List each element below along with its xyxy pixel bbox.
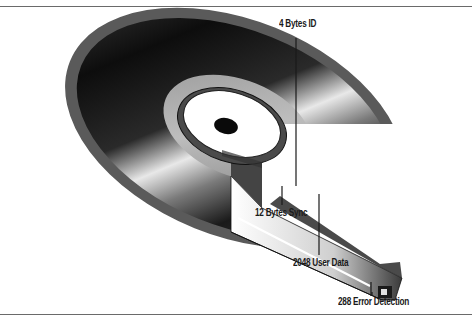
label-4-bytes-id: 4 Bytes ID <box>279 18 316 29</box>
label-12-bytes-sync: 12 Bytes Sync <box>255 207 307 218</box>
label-288-error-detection: 288 Error Detection <box>338 296 409 307</box>
bottom-rule <box>0 314 472 315</box>
cd-disc-illustration <box>0 0 472 320</box>
label-2048-user-data: 2048 User Data <box>293 257 348 268</box>
